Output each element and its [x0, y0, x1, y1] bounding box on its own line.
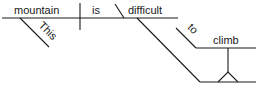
complement-divider: [115, 4, 124, 18]
word-subject: mountain: [14, 4, 59, 16]
diagram-svg: mountain is difficult This to climb: [0, 0, 257, 86]
word-predicate-adjective: difficult: [128, 4, 162, 16]
word-verb: is: [92, 4, 100, 16]
word-infinitive-verb: climb: [213, 34, 239, 46]
word-infinitive-marker: to: [186, 21, 201, 36]
pedestal-triangle: [218, 72, 238, 82]
sentence-diagram: mountain is difficult This to climb: [0, 0, 257, 86]
word-modifier: This: [37, 19, 61, 43]
